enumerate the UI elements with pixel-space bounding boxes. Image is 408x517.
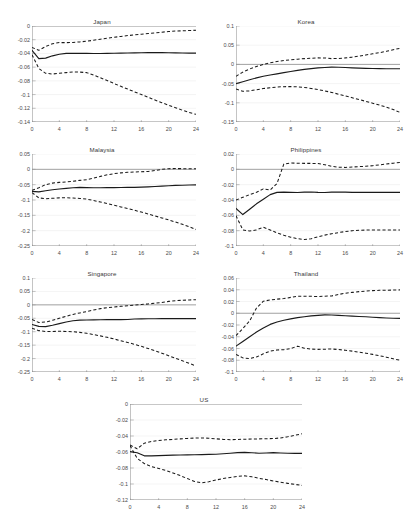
y-axis-tick-label: -0.05 (222, 81, 234, 87)
x-axis-labels: 04812162024 (236, 124, 400, 136)
x-axis-labels: 04812162024 (236, 374, 400, 386)
x-axis-tick-label: 12 (111, 126, 117, 132)
x-axis-tick-label: 8 (85, 376, 88, 382)
x-axis-labels: 04812162024 (32, 124, 196, 136)
y-axis-tick-label: -0.06 (222, 212, 234, 218)
x-axis-tick-label: 16 (342, 126, 348, 132)
x-axis-tick-label: 0 (235, 376, 238, 382)
plot-area: 0.10.050-0.05-0.1-0.15-0.2-0.25 04812162… (6, 278, 198, 386)
chart-title: Thailand (210, 270, 402, 278)
y-axis-tick-label: -0.05 (18, 182, 30, 188)
x-axis-tick-label: 20 (370, 250, 376, 256)
y-axis-labels: 0.020-0.02-0.04-0.06-0.08-0.1 (210, 154, 236, 246)
chart-title: Singapore (6, 270, 198, 278)
x-axis-tick-label: 24 (397, 376, 403, 382)
x-axis-tick-label: 24 (299, 504, 305, 510)
x-axis-tick-label: 24 (193, 376, 199, 382)
y-axis-tick-label: -0.14 (18, 119, 30, 125)
plot-canvas (236, 26, 400, 122)
y-axis-tick-label: -0.1 (119, 481, 128, 487)
x-axis-tick-label: 16 (342, 376, 348, 382)
y-axis-tick-label: 0.02 (224, 151, 235, 157)
chart-panel-korea: Korea 0.10.050-0.05-0.1-0.15 04812162024 (210, 18, 402, 136)
y-axis-tick-label: -0.25 (18, 369, 30, 375)
x-axis-labels: 04812162024 (32, 374, 196, 386)
y-axis-tick-label: 0.06 (224, 275, 235, 281)
x-axis-tick-label: 20 (166, 126, 172, 132)
chart-title: Philippines (210, 146, 402, 154)
y-axis-tick-label: -0.15 (222, 119, 234, 125)
x-axis-labels: 04812162024 (32, 248, 196, 260)
plot-area: 0.020-0.02-0.04-0.06-0.08-0.1 0481216202… (210, 154, 402, 260)
plot-area: 0.060.040.020-0.02-0.04-0.06-0.08-0.1 04… (210, 278, 402, 386)
x-axis-tick-label: 12 (213, 504, 219, 510)
x-axis-tick-label: 12 (315, 126, 321, 132)
y-axis-tick-label: 0.02 (224, 299, 235, 305)
y-axis-tick-label: 0.1 (227, 23, 235, 29)
y-axis-tick-label: -0.15 (18, 212, 30, 218)
y-axis-labels: 0.050-0.05-0.1-0.15-0.2-0.25 (6, 154, 32, 246)
plot-canvas (236, 154, 400, 246)
y-axis-tick-label: -0.12 (116, 497, 128, 503)
y-axis-tick-label: -0.02 (222, 322, 234, 328)
y-axis-tick-label: -0.1 (21, 92, 30, 98)
x-axis-tick-label: 16 (342, 250, 348, 256)
x-axis-tick-label: 8 (289, 376, 292, 382)
x-axis-tick-label: 4 (262, 126, 265, 132)
y-axis-labels: 0.060.040.020-0.02-0.04-0.06-0.08-0.1 (210, 278, 236, 372)
x-axis-tick-label: 16 (138, 250, 144, 256)
y-axis-tick-label: 0.05 (224, 42, 235, 48)
plot-area: 0-0.02-0.04-0.06-0.08-0.1-0.12-0.14 0481… (6, 26, 198, 136)
x-axis-tick-label: 16 (138, 376, 144, 382)
x-axis-tick-label: 20 (270, 504, 276, 510)
chart-panel-japan: Japan 0-0.02-0.04-0.06-0.08-0.1-0.12-0.1… (6, 18, 198, 136)
y-axis-tick-label: -0.06 (222, 346, 234, 352)
plot-area: 0.10.050-0.05-0.1-0.15 04812162024 (210, 26, 402, 136)
x-axis-tick-label: 24 (193, 250, 199, 256)
x-axis-tick-label: 8 (289, 250, 292, 256)
y-axis-tick-label: -0.1 (225, 243, 234, 249)
x-axis-tick-label: 16 (242, 504, 248, 510)
x-axis-tick-label: 8 (85, 250, 88, 256)
y-axis-tick-label: -0.04 (222, 197, 234, 203)
x-axis-tick-label: 0 (31, 376, 34, 382)
x-axis-tick-label: 8 (289, 126, 292, 132)
y-axis-tick-label: -0.2 (21, 356, 30, 362)
y-axis-tick-label: 0 (125, 401, 128, 407)
y-axis-labels: 0-0.02-0.04-0.06-0.08-0.1-0.12 (104, 404, 130, 500)
x-axis-tick-label: 12 (315, 376, 321, 382)
y-axis-labels: 0.10.050-0.05-0.1-0.15 (210, 26, 236, 122)
x-axis-tick-label: 24 (397, 250, 403, 256)
x-axis-tick-label: 8 (186, 504, 189, 510)
x-axis-tick-label: 24 (193, 126, 199, 132)
y-axis-tick-label: 0 (231, 310, 234, 316)
x-axis-tick-label: 0 (235, 250, 238, 256)
y-axis-tick-label: -0.1 (225, 369, 234, 375)
chart-panel-philippines: Philippines 0.020-0.02-0.04-0.06-0.08-0.… (210, 146, 402, 260)
chart-title: US (104, 396, 304, 404)
x-axis-tick-label: 4 (262, 376, 265, 382)
y-axis-tick-label: -0.04 (222, 334, 234, 340)
chart-title: Korea (210, 18, 402, 26)
plot-area: 0.050-0.05-0.1-0.15-0.2-0.25 04812162024 (6, 154, 198, 260)
y-axis-tick-label: 0.05 (20, 288, 31, 294)
y-axis-tick-label: -0.06 (18, 64, 30, 70)
x-axis-tick-label: 12 (111, 250, 117, 256)
y-axis-tick-label: 0.05 (20, 151, 31, 157)
y-axis-tick-label: 0 (27, 302, 30, 308)
figure-sheet: Japan 0-0.02-0.04-0.06-0.08-0.1-0.12-0.1… (0, 0, 408, 517)
x-axis-tick-label: 0 (31, 250, 34, 256)
y-axis-tick-label: 0 (27, 166, 30, 172)
x-axis-tick-label: 20 (370, 376, 376, 382)
x-axis-tick-label: 24 (397, 126, 403, 132)
y-axis-labels: 0.10.050-0.05-0.1-0.15-0.2-0.25 (6, 278, 32, 372)
chart-panel-us: US 0-0.02-0.04-0.06-0.08-0.1-0.12 048121… (104, 396, 304, 514)
y-axis-tick-label: -0.1 (225, 100, 234, 106)
chart-panel-thailand: Thailand 0.060.040.020-0.02-0.04-0.06-0.… (210, 270, 402, 386)
x-axis-tick-label: 12 (315, 250, 321, 256)
x-axis-labels: 04812162024 (236, 248, 400, 260)
x-axis-tick-label: 4 (58, 250, 61, 256)
y-axis-tick-label: -0.1 (21, 197, 30, 203)
y-axis-tick-label: 0.1 (23, 275, 31, 281)
x-axis-labels: 04812162024 (130, 502, 302, 514)
